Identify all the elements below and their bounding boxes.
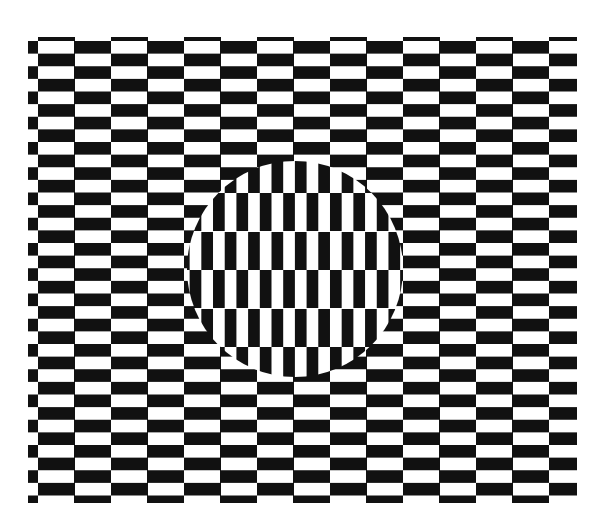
vertical-brick-disc xyxy=(187,161,403,377)
